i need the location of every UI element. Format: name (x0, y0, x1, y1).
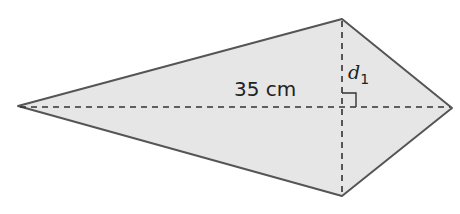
diagonal-length-label: 35 cm (234, 77, 296, 101)
kite-diagram: 35 cm d1 (0, 0, 460, 214)
